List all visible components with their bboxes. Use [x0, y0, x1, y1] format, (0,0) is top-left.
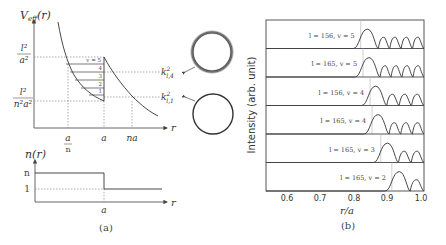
level-label-2: 2	[99, 81, 103, 87]
panel-b-intensity-plot: Intensity (arb. unit) l = 156, v = 5l = …	[246, 20, 427, 231]
x-axis-label: r	[171, 122, 177, 133]
x-tick: 1.0	[415, 194, 428, 203]
y-tick-low-num: l²	[20, 87, 27, 97]
x-tick: 0.7	[314, 194, 327, 203]
y-tick-high-den: a²	[20, 55, 29, 65]
trace-label: l = 165, v = 5	[311, 60, 357, 68]
x-tick-a-over-n: a	[65, 133, 70, 143]
trace-label: l = 165, v = 2	[340, 174, 386, 182]
svg-text:n: n	[65, 145, 70, 154]
x-tick-a: a	[101, 133, 106, 143]
x-ticks: 0.6 0.7 0.8 0.9 1.0	[281, 194, 428, 203]
y-axis-label: Veff(r)	[20, 9, 51, 23]
figure: Veff(r) l² a² l² n²a² a n a na r v	[0, 0, 446, 245]
panel-a-index-plot: n(r) n 1 a r (a)	[24, 148, 177, 233]
y-tick-low-den: n²a²	[14, 99, 33, 109]
level-label-1: 1	[99, 88, 103, 94]
x-tick: 0.8	[348, 194, 361, 203]
y-tick-n: n	[24, 168, 30, 178]
level-label-3: 3	[99, 73, 103, 79]
caption-b: (b)	[341, 220, 355, 231]
trace-label: l = 156, v = 4	[318, 89, 364, 97]
x-tick: 0.9	[381, 194, 394, 203]
x-tick-na: na	[126, 133, 137, 143]
x-axis-label: r	[171, 197, 177, 208]
panel-a-potential-plot: Veff(r) l² a² l² n²a² a n a na r v	[13, 9, 234, 154]
x-axis-label: r/a	[340, 205, 354, 216]
y-tick-1: 1	[24, 184, 30, 194]
level-label-4: 4	[99, 65, 103, 71]
x-tick: 0.6	[281, 194, 294, 203]
level-label-5: v = 5	[85, 57, 101, 63]
n-of-r-label: n(r)	[25, 148, 46, 161]
trace-label: l = 156, v = 5	[309, 32, 355, 40]
y-axis-label: Intensity (arb. unit)	[246, 56, 257, 153]
trace-label: l = 165, v = 3	[329, 146, 375, 154]
fuzzy-ring-mode	[190, 30, 234, 74]
y-tick-high-num: l²	[21, 43, 28, 53]
caption-a: (a)	[99, 222, 113, 233]
k-l4-label: k2l,4	[161, 65, 174, 79]
index-step-profile	[35, 173, 162, 189]
potential-curve-outer	[104, 57, 158, 116]
sharp-ring-mode	[193, 94, 233, 134]
k-l1-label: k2l,1	[161, 90, 174, 104]
x-tick-a: a	[101, 205, 106, 215]
trace-label: l = 165, v = 4	[320, 117, 366, 125]
